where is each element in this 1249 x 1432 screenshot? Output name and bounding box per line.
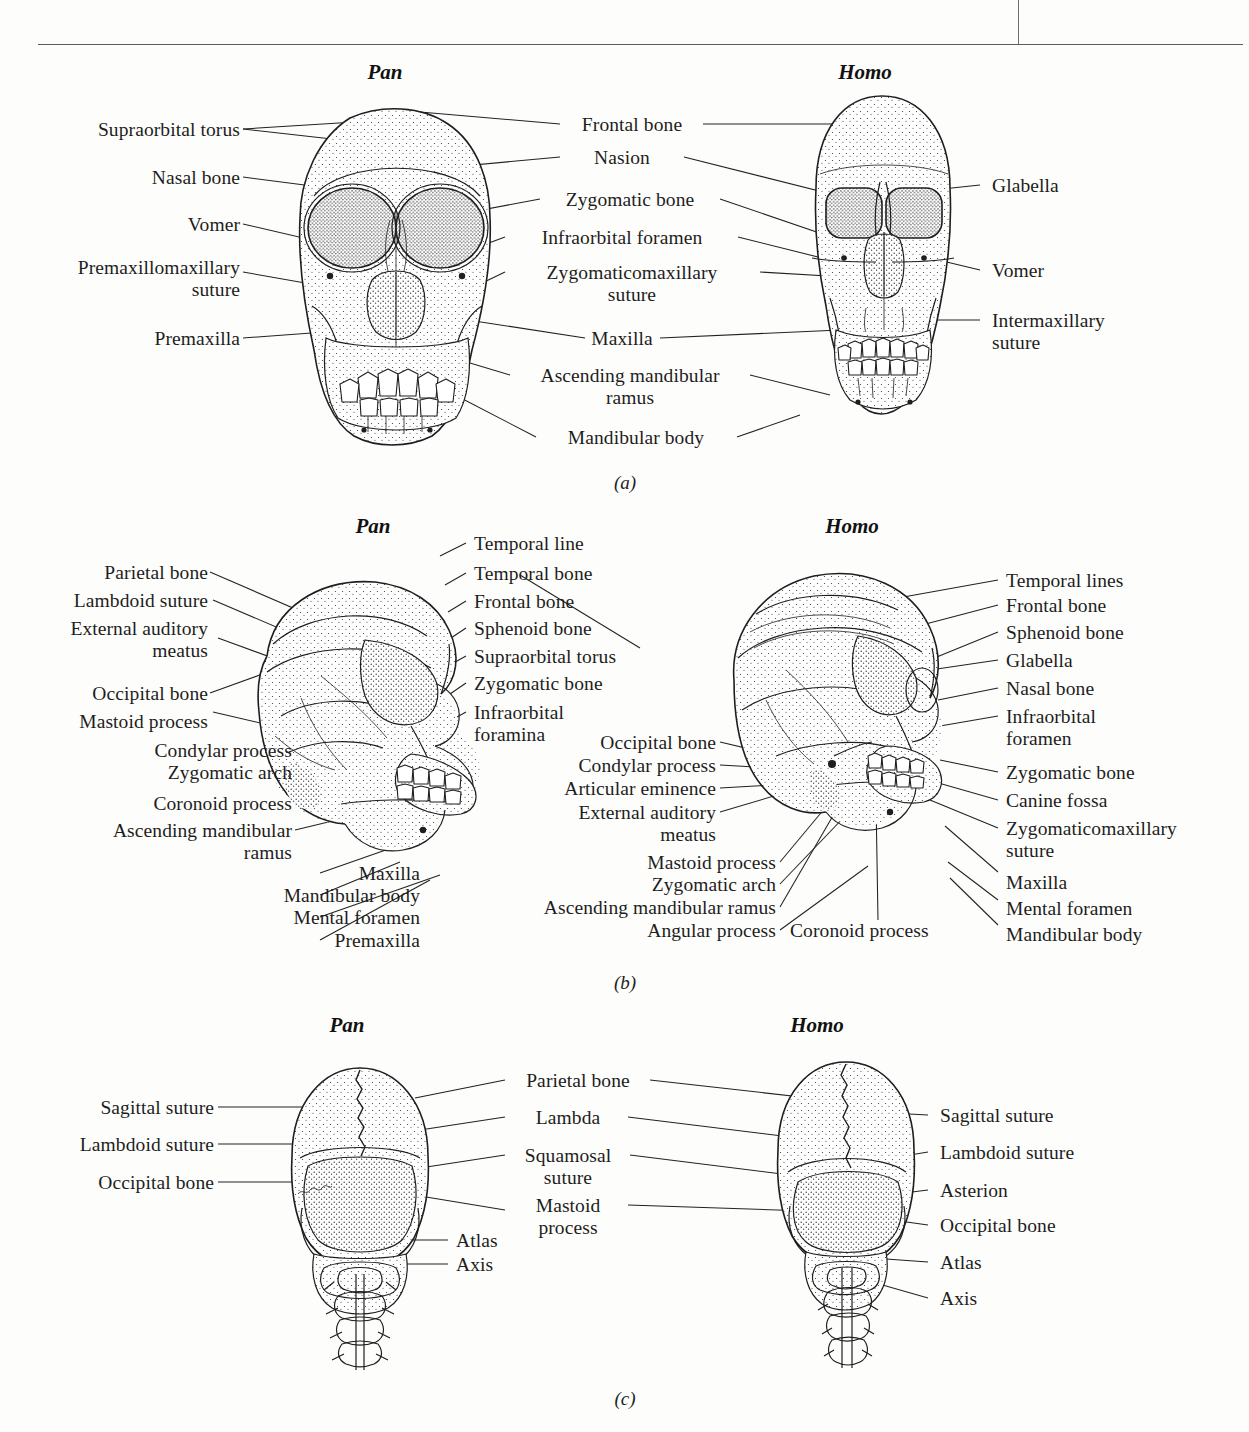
panel-c-label-center-2: Squamosal suture [525,1145,611,1189]
panel-b-label-centerright-4: Mastoid process [647,852,776,874]
panel-a-label-center-5: Maxilla [591,328,652,350]
panel-b-label-centerleft-0: Temporal line [474,533,584,555]
panel-c-label-left-0: Sagittal suture [100,1097,214,1119]
panel-a-label-center-1: Nasion [594,147,650,169]
pan-posterior-skull [238,1046,478,1376]
panel-b-label-centerright-0: Occipital bone [600,732,716,754]
panel-c-label-right-2: Asterion [940,1180,1008,1202]
homo-frontal-skull [768,82,998,432]
panel-c-label-right-0: Sagittal suture [940,1105,1054,1127]
panel-c-label-right-1: Lambdoid suture [940,1142,1074,1164]
panel-a-label-center-6: Ascending mandibular ramus [540,365,719,409]
panel-b-taxon-homo: Homo [825,514,879,539]
homo-lateral-skull [690,540,990,890]
panel-b-label-left-4: Mastoid process [79,711,208,733]
panel-b-label-right-0: Temporal lines [1006,570,1124,592]
panel-b-label-right-11: Mandibular body [1006,924,1142,946]
homo-posterior-skull [730,1046,960,1376]
panel-b-label-left-3: Occipital bone [92,683,208,705]
panel-c-taxon-homo: Homo [790,1013,844,1038]
panel-b-label-right-6: Zygomatic bone [1006,762,1135,784]
panel-c-label-center-5: Axis [456,1254,493,1276]
panel-b-label-left-12: Premaxilla [335,930,420,952]
panel-a-label-center-4: Zygomaticomaxillary suture [547,262,718,306]
panel-c-label-center-3: Mastoid process [536,1195,601,1239]
figure-page: Pan Homo [0,0,1249,1432]
panel-b-label-left-10: Mandibular body [284,885,420,907]
panel-b-label-right-2: Sphenoid bone [1006,622,1124,644]
panel-b-label-right-5: Infraorbital foramen [1006,706,1096,750]
panel-b-label-right-7: Canine fossa [1006,790,1107,812]
panel-b-label-right-9: Maxilla [1006,872,1067,894]
panel-a-label-right-0: Glabella [992,175,1059,197]
panel-b-label-left-5: Condylar process [154,740,292,762]
panel-a-label-left-0: Supraorbital torus [98,119,240,141]
panel-c-label-center-0: Parietal bone [526,1070,630,1092]
panel-b-label-centerright-3: External auditory meatus [578,802,716,846]
pan-frontal-skull [272,100,522,450]
panel-b-label-centerright-5: Zygomatic arch [652,874,776,896]
panel-b-label-right-4: Nasal bone [1006,678,1094,700]
panel-c-label-center-4: Atlas [456,1230,498,1252]
panel-b-label-centerleft-5: Zygomatic bone [474,673,603,695]
panel-b-label-right-1: Frontal bone [1006,595,1106,617]
panel-b-label-left-0: Parietal bone [104,562,208,584]
panel-b-label-left-2: External auditory meatus [70,618,208,662]
panel-b-label-centerright-7: Angular process [647,920,776,942]
panel-c-label-right-3: Occipital bone [940,1215,1056,1237]
panel-b-label-right-3: Glabella [1006,650,1073,672]
panel-b-label-left-6: Zygomatic arch [168,762,292,784]
panel-a-caption: (a) [614,472,636,494]
panel-b-label-left-8: Ascending mandibular ramus [113,820,292,864]
running-head-rule [38,44,1243,45]
panel-b-label-centerright-8: Coronoid process [790,920,929,942]
panel-c-label-right-4: Atlas [940,1252,982,1274]
panel-c-label-right-5: Axis [940,1288,977,1310]
panel-b-label-centerleft-4: Supraorbital torus [474,646,616,668]
panel-b-label-centerleft-6: Infraorbital foramina [474,702,564,746]
panel-a-label-left-1: Nasal bone [152,167,240,189]
panel-a-label-center-2: Zygomatic bone [566,189,695,211]
panel-b-label-centerleft-1: Temporal bone [474,563,593,585]
panel-a-label-center-0: Frontal bone [582,114,682,136]
panel-b-label-left-9: Maxilla [359,863,420,885]
panel-b-label-centerright-1: Condylar process [578,755,716,777]
panel-a-label-center-3: Infraorbital foramen [542,227,703,249]
panel-b-label-centerleft-3: Sphenoid bone [474,618,592,640]
panel-b-label-right-8: Zygomaticomaxillary suture [1006,818,1177,862]
panel-c-label-left-1: Lambdoid suture [80,1134,214,1156]
panel-c-taxon-pan: Pan [329,1013,364,1038]
panel-c-caption: (c) [614,1388,635,1410]
panel-b-label-left-7: Coronoid process [153,793,292,815]
panel-b-label-left-11: Mental foramen [294,907,420,929]
panel-a-label-left-2: Vomer [188,214,240,236]
panel-c-label-left-2: Occipital bone [98,1172,214,1194]
panel-b-label-left-1: Lambdoid suture [74,590,208,612]
panel-a-label-center-7: Mandibular body [568,427,704,449]
panel-b-label-right-10: Mental foramen [1006,898,1132,920]
panel-a-taxon-pan: Pan [367,60,402,85]
panel-c-label-center-1: Lambda [536,1107,601,1129]
panel-b-label-centerright-2: Articular eminence [564,778,716,800]
panel-b-label-centerleft-2: Frontal bone [474,591,574,613]
panel-b-caption: (b) [614,972,636,994]
running-head-tick [1018,0,1019,44]
panel-a-label-left-4: Premaxilla [155,328,240,350]
panel-a-label-right-2: Intermaxillary suture [992,310,1105,354]
panel-a-label-right-1: Vomer [992,260,1044,282]
panel-b-label-centerright-6: Ascending mandibular ramus [544,897,776,919]
panel-b-taxon-pan: Pan [355,514,390,539]
panel-a-label-left-3: Premaxillomaxillary suture [78,257,240,301]
